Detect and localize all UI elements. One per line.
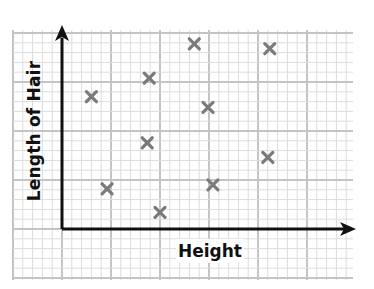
y-axis-label-container: Length of Hair: [21, 56, 47, 206]
data-points: [86, 39, 274, 218]
y-axis-label: Length of Hair: [24, 61, 44, 202]
x-marker-icon: [142, 138, 152, 148]
x-axis-label: Height: [176, 239, 244, 263]
x-marker-icon: [189, 39, 199, 49]
